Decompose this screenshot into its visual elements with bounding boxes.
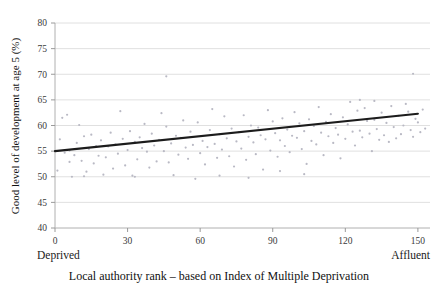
scatter-point xyxy=(301,148,303,150)
scatter-point xyxy=(371,150,373,152)
scatter-point xyxy=(327,135,329,137)
scatter-point xyxy=(412,136,414,138)
scatter-point xyxy=(165,125,167,127)
scatter-point xyxy=(141,147,143,149)
scatter-point xyxy=(78,124,80,126)
scatter-point xyxy=(228,155,230,157)
scatter-point xyxy=(206,146,208,148)
scatter-point xyxy=(76,142,78,144)
scatter-point xyxy=(160,112,162,114)
scatter-point xyxy=(216,157,218,159)
y-tick-label-55: 55 xyxy=(38,146,48,156)
scatter-point xyxy=(373,100,375,102)
scatter-point xyxy=(124,164,126,166)
scatter-point xyxy=(274,132,276,134)
scatter-point xyxy=(243,114,245,116)
scatter-point xyxy=(170,142,172,144)
scatter-point xyxy=(218,175,220,177)
scatter-point xyxy=(269,150,271,152)
scatter-point xyxy=(245,159,247,161)
scatter-point xyxy=(414,118,416,120)
y-tick-label-65: 65 xyxy=(38,95,48,105)
scatter-point xyxy=(381,112,383,114)
scatter-point xyxy=(255,153,257,155)
x-tick-label-90: 90 xyxy=(268,236,278,246)
scatter-point xyxy=(56,170,58,172)
chart-canvas: 404550556065707580 0306090120150 Deprive… xyxy=(0,0,438,291)
scatter-point xyxy=(419,131,421,133)
scatter-point xyxy=(306,163,308,165)
scatter-point xyxy=(252,141,254,143)
scatter-point xyxy=(393,126,395,128)
scatter-point xyxy=(182,119,184,121)
scatter-point xyxy=(81,160,83,162)
scatter-point xyxy=(400,133,402,135)
scatter-point xyxy=(315,143,317,145)
scatter-point xyxy=(417,121,419,123)
scatter-point xyxy=(424,127,426,129)
scatter-point xyxy=(66,114,68,116)
scatter-point xyxy=(359,130,361,132)
scatter-point xyxy=(351,131,353,133)
scatter-point xyxy=(112,167,114,169)
scatter-point xyxy=(83,135,85,137)
y-tick-label-45: 45 xyxy=(38,198,48,208)
scatter-point xyxy=(172,174,174,176)
y-tick-label-50: 50 xyxy=(38,172,48,182)
scatter-point xyxy=(90,134,92,136)
scatter-point xyxy=(250,124,252,126)
scatter-point xyxy=(136,158,138,160)
scatter-point xyxy=(284,145,286,147)
scatter-point xyxy=(376,128,378,130)
scatter-point xyxy=(332,142,334,144)
scatter-point xyxy=(293,111,295,113)
scatter-point xyxy=(296,137,298,139)
scatter-point xyxy=(177,154,179,156)
x-axis-tick-labels: 0306090120150 xyxy=(53,236,426,246)
scatter-point xyxy=(286,129,288,131)
scatter-point xyxy=(194,178,196,180)
scatter-point xyxy=(378,139,380,141)
scatter-point xyxy=(199,152,201,154)
y-axis-tick-labels: 404550556065707580 xyxy=(38,18,48,233)
scatter-point xyxy=(322,154,324,156)
scatter-point xyxy=(366,120,368,122)
scatter-point xyxy=(359,99,361,101)
scatter-point xyxy=(68,161,70,163)
scatter-point xyxy=(93,162,95,164)
scatter-point xyxy=(257,126,259,128)
x-tick-marks-group xyxy=(55,228,418,232)
scatter-point xyxy=(303,130,305,132)
scatter-point xyxy=(97,155,99,157)
scatter-point xyxy=(308,118,310,120)
scatter-point xyxy=(214,143,216,145)
scatter-point xyxy=(83,175,85,177)
scatter-point xyxy=(197,121,199,123)
scatter-point xyxy=(364,107,366,109)
scatter-point xyxy=(146,151,148,153)
scatter-point xyxy=(105,156,107,158)
x-tick-label-150: 150 xyxy=(411,236,426,246)
scatter-point xyxy=(260,134,262,136)
scatter-point xyxy=(126,149,128,151)
scatter-point xyxy=(131,175,133,177)
scatter-point xyxy=(61,117,63,119)
scatter-point xyxy=(71,176,73,178)
scatter-point xyxy=(337,134,339,136)
gridlines-group xyxy=(55,23,430,202)
scatter-point xyxy=(342,116,344,118)
scatter-point xyxy=(272,120,274,122)
scatter-point xyxy=(231,127,233,129)
scatter-point xyxy=(390,105,392,107)
x-axis-right-endpoint-label: Affluent xyxy=(391,249,431,261)
scatter-point xyxy=(240,147,242,149)
scatter-point xyxy=(291,135,293,137)
y-tick-marks-group xyxy=(51,23,55,228)
x-tick-label-30: 30 xyxy=(123,236,133,246)
y-tick-label-80: 80 xyxy=(38,18,48,28)
scatter-point xyxy=(247,136,249,138)
scatter-point xyxy=(148,166,150,168)
scatter-point xyxy=(185,146,187,148)
scatter-point xyxy=(267,109,269,111)
scatter-point xyxy=(165,75,167,77)
